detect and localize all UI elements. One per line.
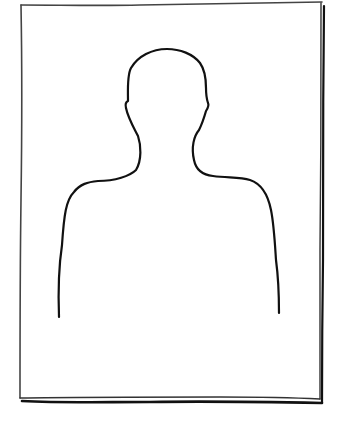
person-silhouette-icon <box>59 49 279 317</box>
frame <box>20 2 324 403</box>
portrait-placeholder <box>0 0 337 427</box>
